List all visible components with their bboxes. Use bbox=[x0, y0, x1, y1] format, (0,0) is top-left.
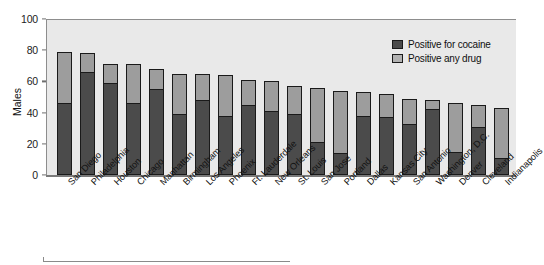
footer-rule-cap bbox=[43, 257, 44, 262]
legend-swatch-icon bbox=[392, 40, 403, 49]
legend-label: Positive for cocaine bbox=[408, 39, 491, 50]
y-tick-label: 40 bbox=[27, 107, 38, 119]
legend-item: Positive for cocaine bbox=[392, 38, 520, 50]
legend-item: Positive any drug bbox=[392, 52, 520, 64]
bar-stack bbox=[57, 19, 72, 175]
legend-label: Positive any drug bbox=[408, 53, 481, 64]
chart-legend: Positive for cocainePositive any drug bbox=[392, 38, 520, 66]
y-axis-title: Males bbox=[11, 72, 23, 132]
x-axis-labels: San DiegoPhiladelphiaHoustonChicagoManha… bbox=[0, 176, 526, 236]
y-tick-label: 100 bbox=[21, 13, 38, 25]
bar-stack bbox=[356, 19, 371, 175]
footer-rule bbox=[43, 261, 290, 262]
legend-swatch-icon bbox=[392, 54, 403, 63]
y-tick-label: 60 bbox=[27, 75, 38, 87]
y-tick-label: 20 bbox=[27, 138, 38, 150]
y-tick-label: 80 bbox=[27, 44, 38, 56]
bar-segment-cocaine bbox=[57, 103, 72, 175]
bar-stack bbox=[149, 19, 164, 175]
bar-stack bbox=[333, 19, 348, 175]
